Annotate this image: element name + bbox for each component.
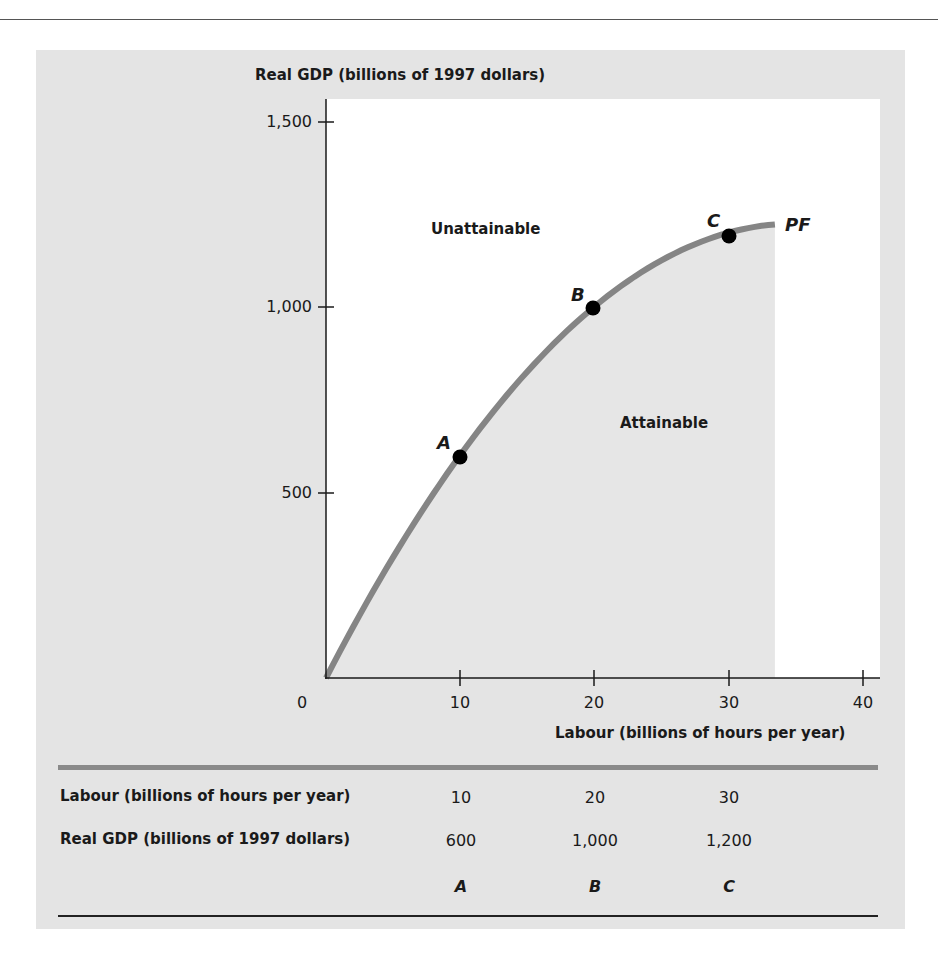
point-c-label: C [707,210,720,231]
attainable-label: Attainable [620,414,708,432]
table-top-rule [58,765,878,770]
table-row-labour-label: Labour (billions of hours per year) [60,787,350,805]
point-a-marker [453,450,468,465]
table-point-label: B [550,877,640,896]
y-tick-label-1500: 1,500 [252,112,312,131]
table-row-gdp-label: Real GDP (billions of 1997 dollars) [60,830,350,848]
y-axis-label: Real GDP (billions of 1997 dollars) [255,66,545,84]
x-tick-label-30: 30 [709,693,749,712]
chart-svg [0,0,938,966]
y-tick-label-500: 500 [252,483,312,502]
table-cell: 10 [416,788,506,807]
x-tick-label-0: 0 [282,693,322,712]
point-c-marker [722,229,737,244]
table-cell: 20 [550,788,640,807]
x-tick-label-20: 20 [574,693,614,712]
point-b-marker [586,301,601,316]
point-a-label: A [437,432,451,453]
table-bottom-rule [58,915,878,917]
x-axis-label: Labour (billions of hours per year) [555,724,845,742]
x-tick-label-40: 40 [843,693,883,712]
table-cell: 600 [416,831,506,850]
table-point-label: C [684,877,774,896]
table-cell: 1,200 [684,831,774,850]
table-point-label: A [416,877,506,896]
unattainable-label: Unattainable [431,220,540,238]
point-b-label: B [571,284,585,305]
x-tick-label-10: 10 [440,693,480,712]
table-cell: 30 [684,788,774,807]
y-tick-label-1000: 1,000 [252,297,312,316]
table-cell: 1,000 [550,831,640,850]
pf-label: PF [785,214,811,235]
